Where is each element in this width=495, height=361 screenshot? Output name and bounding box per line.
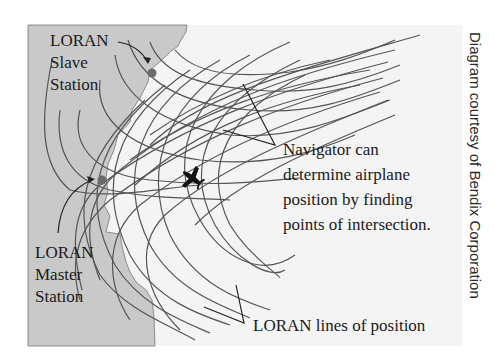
- slave-label-line-1: LORAN: [50, 30, 109, 52]
- master-label-line-3: Station: [35, 286, 94, 308]
- lines-of-position-label: LORAN lines of position: [253, 315, 425, 337]
- master-label-line-2: Master: [35, 264, 94, 286]
- master-station-label: LORAN Master Station: [35, 242, 94, 308]
- navigator-note: Navigator can determine airplane positio…: [283, 137, 431, 237]
- slave-label-line-2: Slave: [50, 52, 109, 74]
- navigator-line-4: points of intersection.: [283, 212, 431, 237]
- diagram-credit: Diagram courtesy of Bendix Corporation: [467, 32, 484, 299]
- master-label-line-1: LORAN: [35, 242, 94, 264]
- navigator-line-1: Navigator can: [283, 137, 431, 162]
- slave-station-label: LORAN Slave Station: [50, 30, 109, 96]
- navigator-line-3: position by finding: [283, 187, 431, 212]
- navigator-line-2: determine airplane: [283, 162, 431, 187]
- master-station-dot: [98, 176, 107, 185]
- slave-station-dot: [148, 69, 157, 78]
- slave-label-line-3: Station: [50, 74, 109, 96]
